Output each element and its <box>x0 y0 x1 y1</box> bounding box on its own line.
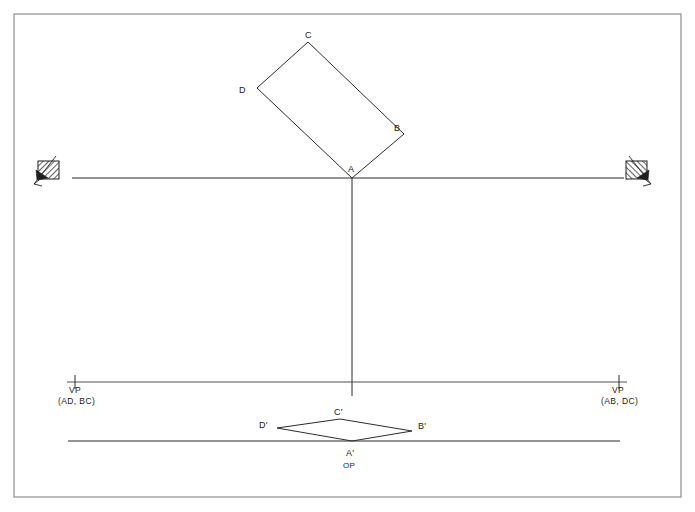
vanishing-point-left-label: VP <box>69 385 81 395</box>
vertex-label-a-prime: A' <box>346 448 354 458</box>
page-background <box>0 0 695 512</box>
vanishing-point-left-sublabel: (AD, BC) <box>58 396 95 406</box>
vertex-label-b-prime: B' <box>418 421 426 431</box>
vertex-label-c-prime: C' <box>334 407 343 417</box>
vanishing-point-right-label: VP <box>612 385 624 395</box>
vertex-label-d-prime: D' <box>259 420 268 430</box>
vertex-label-c: C <box>305 30 312 40</box>
vertex-label-b: B <box>394 123 400 133</box>
drawing-sheet: A B C D A' B' C' D' OP VP (AD, BC) VP (A… <box>0 0 695 512</box>
vertex-label-a: A <box>348 164 354 174</box>
perspective-drawing-canvas: A B C D A' B' C' D' OP VP (AD, BC) VP (A… <box>0 0 695 512</box>
origin-point-label: OP <box>343 461 355 470</box>
vertex-label-d: D <box>239 85 246 95</box>
vanishing-point-right-sublabel: (AB, DC) <box>601 396 638 406</box>
